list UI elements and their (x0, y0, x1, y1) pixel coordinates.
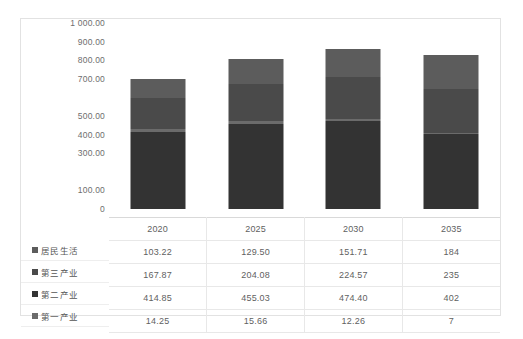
table-cell: 129.50 (207, 241, 305, 264)
table-cell: 184 (402, 241, 500, 264)
table-cell: 103.22 (109, 241, 207, 264)
legend-swatch-icon (32, 269, 38, 275)
table-row: 167.87204.08224.57235 (109, 264, 500, 287)
bar-segment[interactable] (326, 77, 381, 119)
y-axis-tick: 0 (100, 205, 105, 214)
table-cell: 14.25 (109, 310, 207, 333)
table-header-cell: 2035 (402, 218, 500, 241)
y-axis-tick: 900.00 (78, 38, 105, 47)
y-axis-tick: 500.00 (78, 112, 105, 121)
table-cell: 235 (402, 264, 500, 287)
legend-item-label: 第二产业 (41, 288, 78, 300)
legend-item-label: 第三产业 (41, 266, 78, 278)
y-axis-tick: 700.00 (78, 75, 105, 84)
table-cell: 12.26 (305, 310, 403, 333)
table-row: 103.22129.50151.71184 (109, 241, 500, 264)
plot-area: 1 000.00900.00800.00700.00500.00400.0030… (21, 19, 500, 217)
bar-segment[interactable] (424, 134, 479, 209)
legend-item-label: 居民生活 (41, 244, 78, 256)
table-cell: 204.08 (207, 264, 305, 287)
y-axis-tick: 400.00 (78, 131, 105, 140)
table-cell: 224.57 (305, 264, 403, 287)
legend-item[interactable]: 居民生活 (21, 239, 109, 261)
legend-swatch-icon (32, 313, 38, 319)
bar-segment[interactable] (228, 124, 283, 209)
table-row: 414.85455.03474.40402 (109, 287, 500, 310)
y-axis-tick: 1 000.00 (70, 19, 105, 28)
bars-region (109, 19, 500, 217)
y-axis-tick: 100.00 (78, 186, 105, 195)
bar-segment[interactable] (424, 55, 479, 89)
bar-stack[interactable] (228, 59, 283, 209)
legend-item[interactable]: 第一产业 (21, 305, 109, 327)
data-table: 2020202520302035103.22129.50151.71184167… (109, 217, 500, 333)
bar-segment[interactable] (326, 121, 381, 209)
legend-item-label: 第一产业 (41, 310, 78, 322)
chart-frame: 1 000.00900.00800.00700.00500.00400.0030… (20, 18, 501, 316)
table-header-row: 2020202520302035 (109, 218, 500, 241)
table-cell: 474.40 (305, 287, 403, 310)
table-cell: 455.03 (207, 287, 305, 310)
bar-stack[interactable] (424, 55, 479, 209)
table-cell: 15.66 (207, 310, 305, 333)
table-cell: 151.71 (305, 241, 403, 264)
table-cell: 414.85 (109, 287, 207, 310)
bar-slot (109, 19, 207, 217)
legend-swatch-icon (32, 247, 38, 253)
bar-segment[interactable] (228, 84, 283, 122)
table-cell: 7 (402, 310, 500, 333)
legend-row-labels: 居民生活第三产业第二产业第一产业 (21, 239, 109, 327)
table-cell: 167.87 (109, 264, 207, 287)
bar-slot (305, 19, 403, 217)
table-header-cell: 2020 (109, 218, 207, 241)
bar-segment[interactable] (130, 132, 185, 209)
table-header-cell: 2030 (305, 218, 403, 241)
bar-segment[interactable] (130, 79, 185, 98)
bar-segment[interactable] (424, 89, 479, 133)
table-row: 14.2515.6612.267 (109, 310, 500, 333)
table-header-cell: 2025 (207, 218, 305, 241)
table-cell: 402 (402, 287, 500, 310)
y-axis: 1 000.00900.00800.00700.00500.00400.0030… (21, 19, 109, 217)
y-axis-tick: 300.00 (78, 149, 105, 158)
bar-slot (402, 19, 500, 217)
legend-item[interactable]: 第三产业 (21, 261, 109, 283)
bar-stack[interactable] (130, 79, 185, 209)
legend-swatch-icon (32, 291, 38, 297)
y-axis-tick: 800.00 (78, 56, 105, 65)
bar-slot (207, 19, 305, 217)
bar-stack[interactable] (326, 49, 381, 209)
legend-item[interactable]: 第二产业 (21, 283, 109, 305)
bar-segment[interactable] (228, 59, 283, 83)
bar-segment[interactable] (326, 49, 381, 77)
bar-segment[interactable] (130, 98, 185, 129)
